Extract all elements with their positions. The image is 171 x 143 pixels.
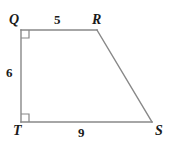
vertex-label-q: Q xyxy=(9,13,19,27)
vertex-label-s: S xyxy=(155,124,163,138)
trapezoid-drawing xyxy=(0,0,171,143)
vertex-label-r: R xyxy=(92,13,101,27)
right-angle-marker-t xyxy=(21,114,29,122)
vertex-label-t: T xyxy=(13,124,22,138)
side-measure-st: 9 xyxy=(78,126,85,139)
side-measure-qr: 5 xyxy=(54,13,61,26)
side-measure-tq: 6 xyxy=(6,66,13,79)
right-angle-marker-q xyxy=(21,30,29,38)
geometry-figure-trapezoid-qrst: Q R T S 5 6 9 xyxy=(0,0,171,143)
side-rs xyxy=(97,30,152,122)
